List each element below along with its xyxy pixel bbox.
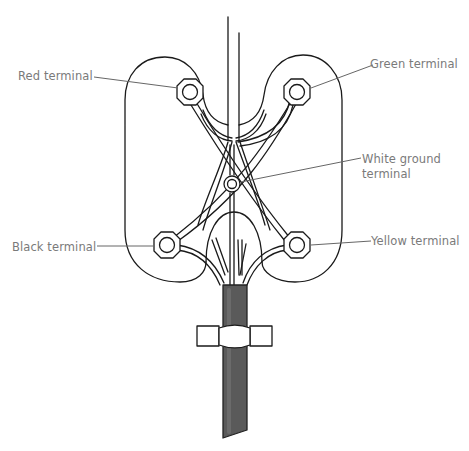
label-black-terminal: Black terminal	[12, 240, 96, 254]
label-green-terminal: Green terminal	[370, 57, 458, 71]
leader-green	[311, 65, 373, 88]
terminal-green	[284, 79, 310, 105]
terminal-white-ground	[224, 176, 240, 192]
label-white-ground-terminal-line1: White ground	[362, 152, 441, 166]
label-yellow-terminal: Yellow terminal	[371, 234, 460, 248]
top-center-lines	[228, 17, 239, 140]
terminal-yellow	[284, 232, 310, 258]
terminal-black	[154, 232, 180, 258]
leader-red	[94, 77, 178, 88]
cable	[223, 285, 247, 438]
terminal-red	[177, 79, 203, 105]
label-red-terminal: Red terminal	[18, 69, 93, 83]
cable-clip	[197, 325, 272, 348]
wires	[173, 100, 296, 285]
label-white-ground-terminal-line2: terminal	[362, 167, 411, 181]
